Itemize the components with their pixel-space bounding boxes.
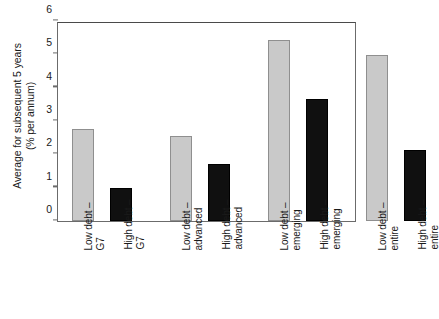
x-axis-label-line: Low debt – <box>377 202 389 250</box>
x-axis-label-line: entire <box>388 202 400 250</box>
x-axis-label-line: High debt – <box>122 200 134 250</box>
x-axis-label: Low debt –emerging <box>267 224 289 319</box>
x-axis-label: High debt –entire <box>403 224 425 319</box>
y-axis-title: Average for subsequent 5 years (% per an… <box>0 0 48 232</box>
x-axis-label: Low debt –G7 <box>71 224 93 319</box>
x-axis-label-line: Low debt – <box>83 202 95 250</box>
y-axis-title-line-1: Average for subsequent 5 years <box>11 43 24 189</box>
bars-layer <box>58 23 355 221</box>
bar-low-debt-entire <box>366 55 388 221</box>
y-tick-label: 1 <box>46 170 58 182</box>
y-tick-label: 4 <box>46 70 58 82</box>
x-axis-label-line: emerging <box>330 200 342 250</box>
x-axis-label: High debt –emerging <box>305 224 327 319</box>
y-axis-title-line-2: (% per annum) <box>24 43 37 189</box>
y-tick-label: 2 <box>46 136 58 148</box>
bar-low-debt-emerging <box>268 40 290 221</box>
x-axis-label: High debt –advanced <box>207 224 229 319</box>
x-axis-label-line: G7 <box>134 200 146 250</box>
x-axis-label-line: advanced <box>192 202 204 250</box>
plot-area: 0123456 <box>57 22 356 222</box>
x-axis-label: High debt –G7 <box>109 224 131 319</box>
y-tick-mark <box>53 19 58 20</box>
x-axis-label: Low debt –advanced <box>169 224 191 319</box>
x-axis-label-line: High debt – <box>416 200 428 250</box>
y-tick-label: 6 <box>46 3 58 15</box>
y-tick-label: 5 <box>46 36 58 48</box>
x-axis-label-line: High debt – <box>220 200 232 250</box>
x-axis-label-line: advanced <box>232 200 244 250</box>
x-axis-label-line: High debt – <box>318 200 330 250</box>
y-tick-label: 0 <box>46 203 58 215</box>
x-axis-label-line: Low debt – <box>181 202 193 250</box>
x-axis-category-labels: Low debt –G7High debt –G7Low debt –advan… <box>57 224 356 319</box>
x-axis-label-line: entire <box>428 200 439 250</box>
x-axis-label-line: Low debt – <box>279 202 291 250</box>
x-axis-label-line: emerging <box>290 202 302 250</box>
x-axis-label-line: G7 <box>94 202 106 250</box>
x-axis-label: Low debt –entire <box>365 224 387 319</box>
y-tick-label: 3 <box>46 103 58 115</box>
